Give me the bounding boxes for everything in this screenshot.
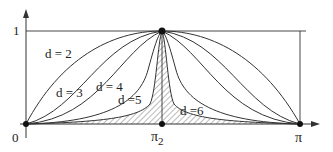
plot-svg	[0, 0, 333, 152]
peak-point	[159, 28, 166, 35]
hatched-region	[26, 31, 300, 124]
y-tick-one: 1	[13, 24, 20, 37]
origin-label: 0	[12, 131, 19, 144]
label-d6: d =6	[180, 104, 204, 117]
pi-point	[297, 121, 303, 127]
label-d3: d = 3	[56, 86, 83, 99]
half-pi-label: π2	[151, 130, 164, 147]
label-d2: d = 2	[45, 47, 72, 60]
origin-point	[23, 121, 29, 127]
half-pi-den: 2	[158, 135, 164, 147]
pi-label: π	[295, 131, 302, 145]
diagram-canvas: 1 0 π2 π d = 2 d = 3 d = 4 d =5 d =6	[0, 0, 333, 152]
x-axis-arrow-icon	[311, 121, 320, 127]
label-d5: d =5	[118, 93, 142, 106]
y-axis-arrow-icon	[23, 9, 29, 18]
half-pi-point	[159, 121, 165, 127]
